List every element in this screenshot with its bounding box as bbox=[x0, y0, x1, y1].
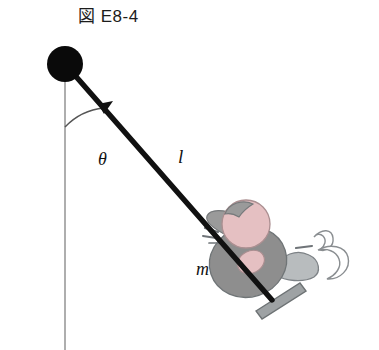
leg-dash-upper bbox=[296, 246, 312, 248]
figure-container: 図 E8-4 bbox=[0, 0, 379, 350]
mass-label: m bbox=[196, 259, 209, 279]
pendulum-diagram: θ l m bbox=[0, 0, 379, 350]
near-leg-outline bbox=[318, 246, 348, 279]
angle-arc bbox=[65, 108, 104, 127]
pendulum-rope bbox=[65, 64, 272, 300]
angle-label: θ bbox=[98, 149, 107, 169]
pivot-bob bbox=[47, 46, 83, 82]
length-label: l bbox=[178, 146, 183, 167]
